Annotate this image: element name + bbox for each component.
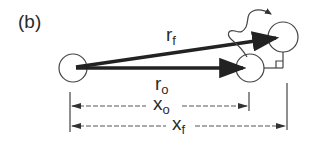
vector-r-f-arrow (76, 38, 276, 67)
right-angle-marker-icon (276, 61, 283, 68)
displacement-diagram: (b) rf ro xo xf (0, 0, 313, 147)
label-x-f: xf (172, 113, 186, 137)
panel-label: (b) (18, 11, 41, 32)
label-r-f: rf (166, 24, 176, 48)
wavy-motion-arrow-icon (228, 10, 271, 57)
